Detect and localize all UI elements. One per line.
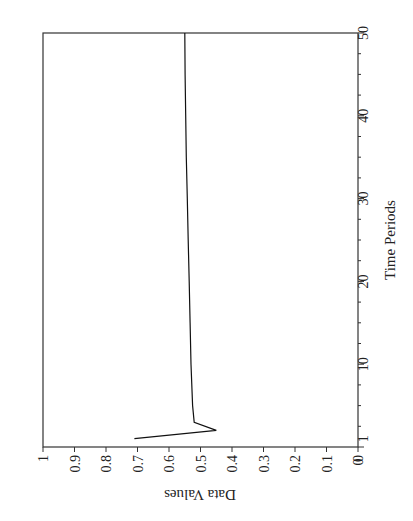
origin-label: 0 [351, 459, 366, 466]
data-series-line [134, 33, 216, 439]
value-tick-label: 0.4 [225, 455, 240, 473]
time-tick-label: 10 [356, 357, 371, 371]
time-tick-label: 40 [356, 109, 371, 123]
value-tick-label: 0.1 [320, 455, 335, 473]
value-tick-label: 0.3 [257, 455, 272, 473]
value-tick-label: 0.8 [99, 455, 114, 473]
plot-frame [43, 33, 358, 447]
value-axis-ticks: 00.10.20.30.40.50.60.70.80.91 [36, 447, 366, 473]
time-axis-ticks: 110203040500 [351, 26, 371, 466]
value-tick-label: 1 [36, 455, 51, 462]
time-axis-title: Time Periods [382, 200, 398, 280]
line-chart: 00.10.20.30.40.50.60.70.80.91 1102030405… [0, 0, 413, 521]
time-tick-label: 30 [356, 192, 371, 206]
time-tick-label: 50 [356, 26, 371, 40]
time-tick-label: 1 [356, 435, 371, 442]
value-tick-label: 0.7 [131, 455, 146, 473]
value-tick-label: 0.2 [288, 455, 303, 473]
value-axis-title: Data Values [164, 487, 236, 503]
value-tick-label: 0.9 [68, 455, 83, 473]
value-tick-label: 0.5 [194, 455, 209, 473]
value-tick-label: 0.6 [162, 455, 177, 473]
time-tick-label: 20 [356, 274, 371, 288]
